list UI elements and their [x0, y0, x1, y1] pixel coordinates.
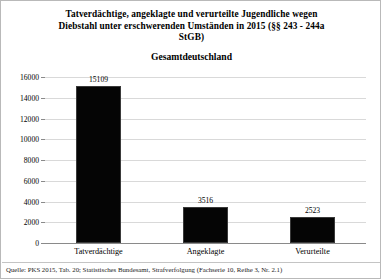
y-axis-tick [41, 77, 45, 78]
y-axis-tick-label: 8000 [24, 156, 39, 165]
y-axis-tick [41, 222, 45, 223]
y-axis-tick-label: 14000 [20, 93, 39, 102]
y-axis-tick-label: 10000 [20, 135, 39, 144]
y-axis-tick-label: 2000 [24, 218, 39, 227]
y-axis-tick [41, 202, 45, 203]
y-axis-tick [41, 119, 45, 120]
chart-subtitle: Gesamtdeutschland [19, 51, 364, 62]
chart-title-line-1: Tatverdächtige, angeklagte und verurteil… [19, 9, 364, 21]
bar [183, 207, 228, 243]
y-axis-tick-label: 12000 [20, 114, 39, 123]
y-axis-tick [41, 243, 45, 244]
y-axis-tick [41, 98, 45, 99]
y-axis-tick [41, 139, 45, 140]
bar [290, 217, 335, 243]
bar-value-label: 15109 [89, 75, 108, 84]
chart-title: Tatverdächtige, angeklagte und verurteil… [19, 9, 364, 44]
chart-title-line-2: Diebstahl unter erschwerenden Umständen … [19, 21, 364, 33]
footer-divider [2, 262, 381, 263]
plot-area: 1510935162523 16000140001200010000800060… [45, 77, 366, 243]
source-note: Quelle: PKS 2015, Tab. 20; Statistisches… [6, 266, 282, 273]
chart-title-line-3: StGB) [19, 32, 364, 44]
y-axis-tick-label: 0 [35, 239, 39, 248]
y-axis-tick-label: 4000 [24, 197, 39, 206]
x-axis-category-label: Verurteilte [295, 247, 330, 256]
x-axis-baseline [45, 243, 366, 244]
y-axis-tick-label: 6000 [24, 176, 39, 185]
y-axis-tick-label: 16000 [20, 73, 39, 82]
bar [76, 86, 121, 243]
x-axis-category-label: Tatverdächtige [74, 247, 123, 256]
x-axis-category-labels: TatverdächtigeAngeklagteVerurteilte [45, 247, 366, 261]
y-axis-tick [41, 181, 45, 182]
bar-value-label: 3516 [198, 196, 213, 205]
bar-value-label: 2523 [305, 206, 320, 215]
chart-container: Tatverdächtige, angeklagte und verurteil… [0, 0, 381, 279]
x-axis-category-label: Angeklagte [187, 247, 225, 256]
y-axis-tick [41, 160, 45, 161]
